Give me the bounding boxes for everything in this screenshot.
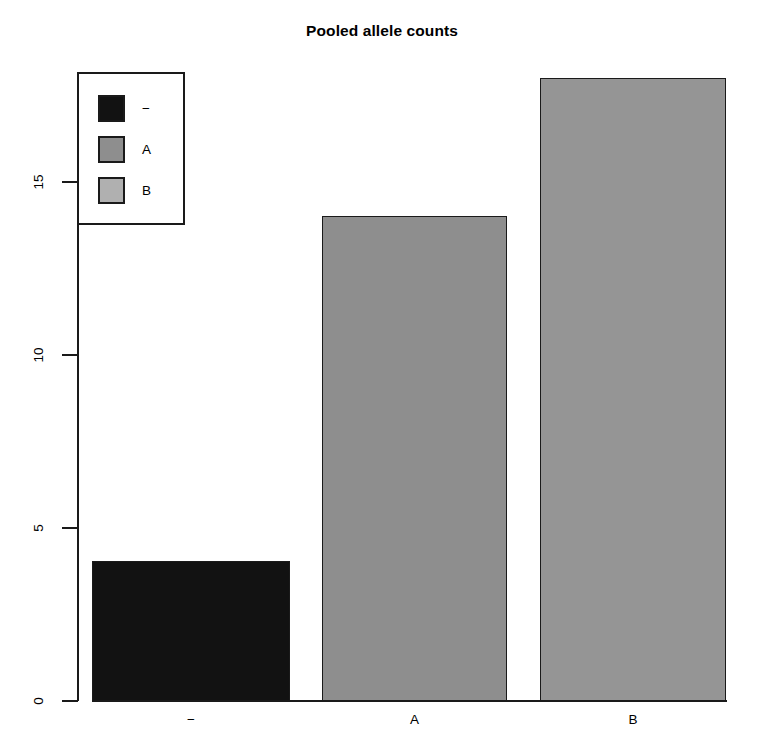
y-tick-mark-5: [62, 527, 78, 529]
legend-swatch-a: [98, 136, 125, 163]
bar-a: [322, 216, 507, 701]
y-tick-mark-0: [62, 700, 78, 702]
y-tick-label-0: 0: [26, 688, 52, 714]
x-tick-label-minus: −: [92, 712, 290, 727]
bar-b: [540, 78, 726, 701]
legend-entry-a: A: [98, 136, 151, 163]
y-tick-label-text: 15: [26, 169, 52, 195]
bar-minus: [92, 561, 290, 701]
y-tick-label-5: 5: [26, 515, 52, 541]
y-tick-label-text: 0: [26, 688, 52, 714]
y-tick-label-15: 15: [26, 169, 52, 195]
x-tick-label-a: A: [322, 712, 507, 727]
x-tick-label-b: B: [540, 712, 726, 727]
legend-swatch-b: [98, 177, 125, 204]
legend-label-a: A: [142, 136, 151, 163]
y-tick-label-10: 10: [26, 342, 52, 368]
y-tick-mark-15: [62, 181, 78, 183]
legend-entry-b: B: [98, 177, 151, 204]
legend-entry-minus: −: [98, 95, 150, 122]
x-axis-line: [92, 700, 727, 702]
legend-label-b: B: [142, 177, 151, 204]
y-axis-line: [77, 181, 79, 701]
legend-label-minus: −: [142, 95, 150, 122]
chart-title: Pooled allele counts: [0, 22, 764, 40]
chart-canvas: Pooled allele counts 15 10 5 0 − A B − A: [0, 0, 764, 754]
y-tick-label-text: 5: [26, 515, 52, 541]
legend: − A B: [77, 72, 185, 225]
y-tick-mark-10: [62, 354, 78, 356]
legend-swatch-minus: [98, 95, 125, 122]
y-tick-label-text: 10: [26, 342, 52, 368]
